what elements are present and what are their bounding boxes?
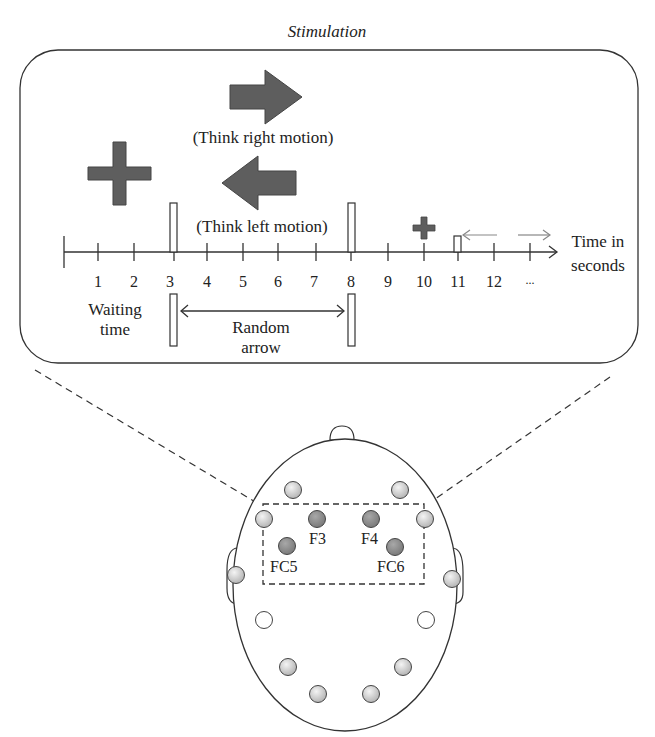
- random-interval-arrow: [181, 305, 344, 317]
- tick-label: 5: [239, 273, 247, 290]
- axis-label-line1: Time in: [572, 232, 625, 251]
- stimulation-diagram: Stimulation (Think right motion) (Think …: [0, 0, 655, 737]
- electrode: [256, 612, 273, 629]
- electrode: [285, 482, 302, 499]
- tick-label: 9: [384, 273, 392, 290]
- tick-label: 7: [310, 273, 318, 290]
- tick-label: 1: [94, 273, 102, 290]
- electrode-f4: [363, 511, 380, 528]
- tick-label: 8: [347, 273, 355, 290]
- label-fc5: FC5: [270, 558, 298, 575]
- nose-icon: [330, 426, 354, 440]
- tick-label: 12: [486, 273, 502, 290]
- electrode: [256, 511, 273, 528]
- marker-8-bottom: [348, 294, 355, 346]
- marker-11-top: [454, 236, 461, 252]
- diagram-title: Stimulation: [288, 22, 366, 41]
- label-f4: F4: [361, 530, 378, 547]
- electrode-f3: [309, 511, 326, 528]
- fixation-cross-icon: [88, 142, 151, 205]
- electrode: [418, 612, 435, 629]
- random-label-line2: arrow: [241, 338, 281, 357]
- tick-label: 10: [416, 273, 432, 290]
- think-right-label: (Think right motion): [193, 128, 334, 147]
- tick-label: ...: [526, 273, 535, 287]
- think-left-label: (Think left motion): [196, 217, 327, 236]
- marker-3-top: [170, 203, 177, 252]
- random-label-line1: Random: [232, 318, 290, 337]
- electrode: [395, 659, 412, 676]
- tick-label: 6: [274, 273, 282, 290]
- waiting-label-line1: Waiting: [88, 300, 142, 319]
- electrode: [310, 686, 327, 703]
- electrode-fc5: [279, 538, 296, 555]
- label-fc6: FC6: [377, 558, 405, 575]
- head-outline: [233, 439, 457, 731]
- hint-arrows: [463, 230, 550, 240]
- waiting-label-line2: time: [100, 320, 130, 339]
- electrode: [363, 686, 380, 703]
- tick-label: 4: [203, 273, 211, 290]
- axis-label-line2: seconds: [571, 256, 625, 275]
- tick-label: 3: [166, 273, 174, 290]
- marker-8-top: [348, 203, 355, 252]
- electrode-fc6: [387, 539, 404, 556]
- small-cross-icon: [413, 217, 435, 239]
- timeline-axis: [64, 236, 557, 268]
- electrode: [417, 511, 434, 528]
- label-f3: F3: [309, 530, 326, 547]
- electrode: [280, 659, 297, 676]
- electrode: [444, 571, 461, 588]
- tick-label: 11: [450, 273, 465, 290]
- marker-3-bottom: [170, 294, 177, 346]
- electrode: [228, 567, 245, 584]
- head-diagram: [227, 426, 463, 731]
- electrode: [392, 482, 409, 499]
- tick-label: 2: [130, 273, 138, 290]
- right-arrow-icon: [230, 70, 302, 124]
- left-arrow-icon: [222, 156, 296, 210]
